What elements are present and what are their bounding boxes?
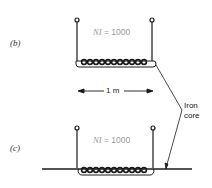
ni-value: = 1000 [104,27,130,37]
ni-variable: NI [93,135,102,145]
dimension-label: 1 m [106,86,119,95]
coil-c [42,126,192,175]
ni-value: = 1000 [104,135,130,145]
iron-core-leaders [156,65,182,169]
panel-b-label: (b) [10,38,21,48]
panel-c-ni: NI = 1000 [93,135,130,145]
iron-core-line2: core [184,111,200,121]
ni-variable: NI [93,27,102,37]
coil-b [75,18,156,67]
iron-core-label: Iron core [184,101,200,121]
iron-core-line1: Iron [184,101,200,111]
panel-c-label: (c) [10,143,20,153]
panel-b-ni: NI = 1000 [93,27,130,37]
